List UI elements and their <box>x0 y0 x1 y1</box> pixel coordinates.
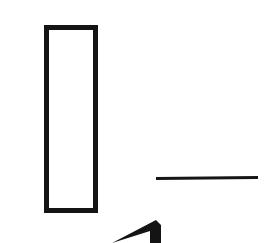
line-drawing <box>0 0 278 243</box>
horizontal-rule-shape <box>156 178 258 179</box>
canvas-background <box>0 0 278 243</box>
drawing-canvas: Scanned ink line drawing Black and white… <box>0 0 278 243</box>
